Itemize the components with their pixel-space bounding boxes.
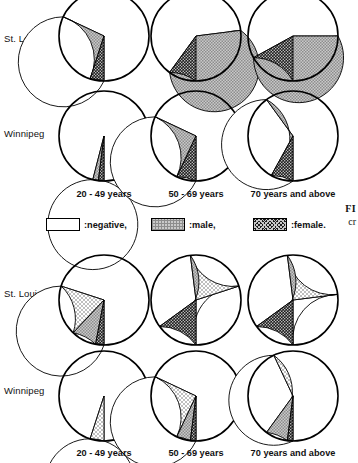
row-label-winnipeg-top: Winnipeg: [4, 128, 44, 139]
row-label-winnipeg-bottom: Winnipeg: [4, 385, 44, 396]
pie-panel-top: St. Louis Winnipeg 20 - 49 years 50 - 69…: [0, 0, 358, 240]
pie-slice-female: [160, 300, 196, 345]
pie-st-louis-20-49-bottom[interactable]: [56, 252, 152, 348]
legend: :negative, :male, :female.: [0, 215, 358, 239]
legend-swatch-male: [151, 218, 185, 231]
pie-st-louis-70plus-top[interactable]: [245, 0, 341, 84]
legend-swatch-negative: [46, 218, 80, 231]
pie-slice-negative: [293, 294, 338, 345]
column-label-50-69-top: 50 - 69 years: [148, 189, 244, 199]
pie-slice-female: [257, 300, 293, 345]
column-label-50-69-bottom: 50 - 69 years: [148, 448, 244, 458]
column-label-20-49-bottom: 20 - 49 years: [56, 448, 152, 458]
figure-caption-line-1: FI: [345, 202, 356, 215]
figure-caption-line-2: cr: [345, 215, 356, 228]
legend-item-female[interactable]: :female.: [253, 218, 326, 231]
column-label-70plus-top: 70 years and above: [237, 189, 349, 199]
legend-label-male: :male,: [189, 220, 216, 230]
pie-slice-light: [90, 396, 104, 441]
pie-st-louis-70plus-bottom[interactable]: [245, 252, 341, 348]
pie-panel-bottom: St. Louis Winnipeg 20 - 49 years 50 - 69…: [0, 240, 358, 463]
pie-st-louis-20-49-top[interactable]: [56, 0, 152, 84]
column-label-20-49-top: 20 - 49 years: [56, 189, 152, 199]
legend-label-female: :female.: [291, 220, 326, 230]
figure-caption: FI cr: [345, 202, 356, 228]
pie-winnipeg-70plus-top[interactable]: [245, 88, 341, 184]
legend-swatch-female: [253, 218, 287, 231]
legend-item-negative[interactable]: :negative,: [46, 218, 127, 231]
column-label-70plus-bottom: 70 years and above: [237, 448, 349, 458]
legend-label-negative: :negative,: [84, 220, 127, 230]
pie-winnipeg-70plus-bottom[interactable]: [245, 348, 341, 444]
legend-item-male[interactable]: :male,: [151, 218, 216, 231]
pie-st-louis-50-69-bottom[interactable]: [148, 252, 244, 348]
pie-st-louis-50-69-top[interactable]: [148, 0, 244, 84]
